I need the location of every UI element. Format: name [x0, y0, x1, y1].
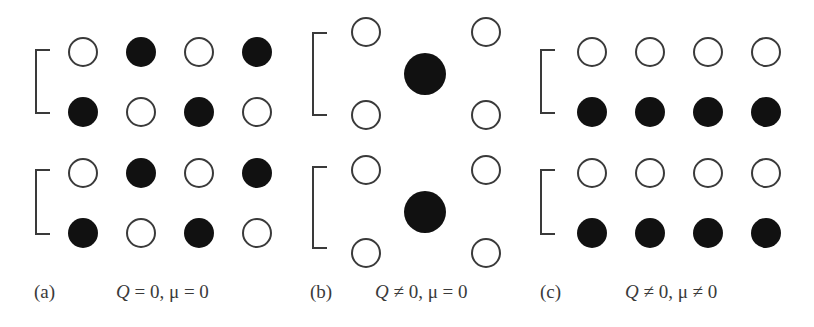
- panel-b-open-site: [472, 156, 500, 184]
- panel-a-condition: Q = 0, μ = 0: [116, 281, 209, 303]
- panel-c-filled-site: [635, 97, 665, 127]
- panel-a-filled-site: [242, 158, 272, 188]
- panel-a-filled-site: [242, 37, 272, 67]
- panel-a-filled-site: [184, 218, 214, 248]
- panel-a-caption: (a): [34, 281, 55, 303]
- panel-b-open-site: [352, 239, 380, 267]
- panel-b-unit-cell-bracket-2: [313, 167, 327, 248]
- panel-c-filled-site: [751, 218, 781, 248]
- panel-c-filled-site: [577, 218, 607, 248]
- panel-a-open-site: [127, 98, 155, 126]
- panel-a-open-site: [69, 159, 97, 187]
- panel-b-condition: Q ≠ 0, μ = 0: [375, 281, 468, 303]
- panel-b-open-site: [472, 18, 500, 46]
- panel-a-open-site: [185, 159, 213, 187]
- panel-c-filled-site: [635, 218, 665, 248]
- panel-a-filled-site: [126, 37, 156, 67]
- panel-b-caption: (b): [310, 281, 332, 303]
- panel-c-open-site: [636, 159, 664, 187]
- panel-c-filled-site: [693, 218, 723, 248]
- panel-c-filled-site: [751, 97, 781, 127]
- panel-a-filled-site: [184, 97, 214, 127]
- panel-c-open-site: [636, 38, 664, 66]
- panel-c-label: (c): [540, 281, 561, 302]
- panel-a-open-site: [243, 98, 271, 126]
- panel-a-filled-site: [68, 218, 98, 248]
- panel-c-open-site: [694, 159, 722, 187]
- panel-c-open-site: [694, 38, 722, 66]
- panel-a-open-site: [243, 219, 271, 247]
- panel-a-open-site: [185, 38, 213, 66]
- panel-a-unit-cell-bracket-1: [36, 50, 50, 113]
- panel-b-filled-large-site: [404, 53, 446, 95]
- panel-a-open-site: [127, 219, 155, 247]
- panel-c-open-site: [578, 159, 606, 187]
- panel-c-condition: Q ≠ 0, μ ≠ 0: [625, 281, 717, 303]
- panel-c-open-site: [752, 159, 780, 187]
- panel-a-filled-site: [68, 97, 98, 127]
- panel-a-open-site: [69, 38, 97, 66]
- panel-b-unit-cell-bracket-1: [313, 33, 327, 115]
- panel-b-filled-large-site: [404, 191, 446, 233]
- panel-b-label: (b): [310, 281, 332, 302]
- panel-b-open-site: [472, 239, 500, 267]
- panel-c-open-site: [578, 38, 606, 66]
- panel-c-open-site: [752, 38, 780, 66]
- panel-c-caption: (c): [540, 281, 561, 303]
- panel-c-filled-site: [577, 97, 607, 127]
- panel-a-filled-site: [126, 158, 156, 188]
- panel-a-label: (a): [34, 281, 55, 302]
- lattice-diagram: [0, 0, 814, 327]
- panel-b-open-site: [352, 156, 380, 184]
- panel-b-open-site: [352, 101, 380, 129]
- panel-c-unit-cell-bracket-1: [541, 50, 555, 113]
- panel-a-unit-cell-bracket-2: [36, 170, 50, 234]
- panel-c-unit-cell-bracket-2: [541, 170, 555, 234]
- panel-b-open-site: [352, 18, 380, 46]
- panel-c-filled-site: [693, 97, 723, 127]
- panel-b-open-site: [472, 101, 500, 129]
